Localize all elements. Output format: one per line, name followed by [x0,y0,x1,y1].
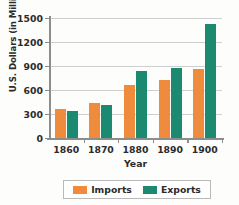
bar-imports-1870 [89,103,100,138]
bar-exports-1870 [101,105,112,138]
x-tick-mark [84,139,85,143]
x-axis-title: Year [49,158,222,169]
x-tick-mark [187,139,188,143]
legend-label: Imports [91,184,132,195]
bar-group [193,18,216,138]
bar-group [159,18,182,138]
y-tick-label: 1500 [17,13,43,24]
orange-swatch [73,186,87,194]
chart-legend: ImportsExports [63,180,211,199]
bar-imports-1880 [124,85,135,138]
y-tick-label: 900 [24,61,43,72]
teal-swatch [143,186,157,194]
x-tick-label: 1900 [192,144,218,155]
bar-chart-figure: U.S. Dollars (in Millions) 0300600900120… [0,0,239,205]
bar-group [89,18,112,138]
x-axis-line [47,138,224,140]
bar-exports-1890 [171,68,182,138]
bar-imports-1890 [159,80,170,138]
y-axis-line [49,16,51,140]
x-tick-mark [222,139,223,143]
y-tick-label: 0 [37,133,43,144]
y-tick-label: 600 [24,85,43,96]
x-tick-label: 1890 [157,144,183,155]
legend-entry-exports[interactable]: Exports [143,184,201,195]
plot-area: 030060090012001500 [49,18,222,138]
bar-imports-1860 [55,109,66,138]
x-tick-mark [153,139,154,143]
x-tick-label: 1880 [123,144,149,155]
bar-exports-1880 [136,71,147,138]
bar-imports-1900 [193,69,204,138]
x-tick-mark [118,139,119,143]
bar-group [55,18,78,138]
y-tick-label: 300 [24,109,43,120]
x-tick-label: 1870 [88,144,114,155]
bar-exports-1860 [67,111,78,138]
bar-group [124,18,147,138]
legend-entry-imports[interactable]: Imports [73,184,132,195]
legend-label: Exports [161,184,201,195]
y-tick-label: 1200 [17,37,43,48]
x-tick-label: 1860 [53,144,79,155]
bar-exports-1900 [205,24,216,138]
